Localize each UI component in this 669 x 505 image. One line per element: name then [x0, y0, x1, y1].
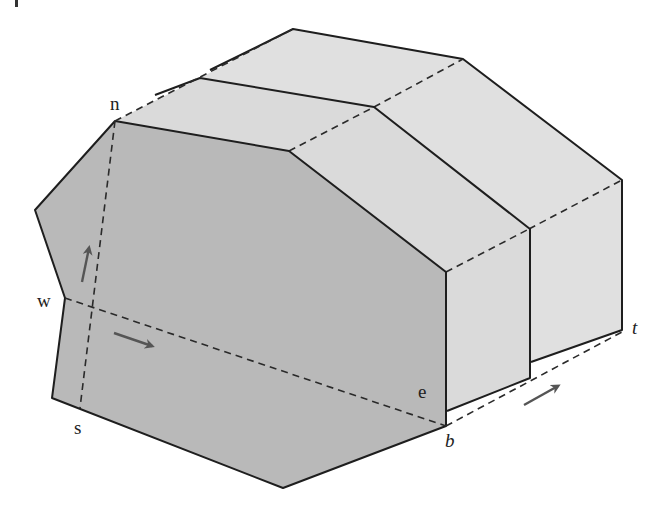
corner-mark	[15, 0, 18, 7]
label-n: n	[110, 93, 120, 114]
prism-diagram: n w s e b t	[0, 0, 669, 505]
label-w: w	[37, 290, 51, 311]
label-t: t	[632, 317, 638, 338]
label-s: s	[74, 417, 81, 438]
label-b: b	[445, 430, 455, 451]
label-e: e	[418, 381, 426, 402]
depth-arrow-icon	[524, 386, 558, 405]
